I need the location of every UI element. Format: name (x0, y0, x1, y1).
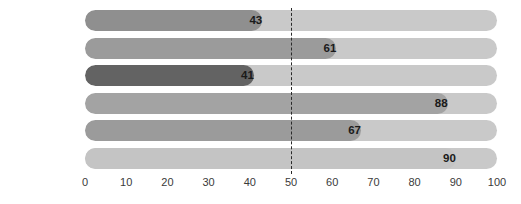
axis-tick: 60 (326, 176, 338, 188)
bar-value-label: 90 (85, 148, 462, 169)
axis-tick: 70 (367, 176, 379, 188)
bar-value-label: 43 (85, 10, 268, 31)
bar-value-label: 67 (85, 120, 367, 141)
axis-tick: 40 (244, 176, 256, 188)
axis-tick: 100 (488, 176, 506, 188)
axis-tick: 20 (161, 176, 173, 188)
axis-tick: 90 (450, 176, 462, 188)
x-axis: 0 10 20 30 40 50 60 70 80 90 100 (0, 176, 521, 196)
axis-tick: 10 (120, 176, 132, 188)
axis-tick: 50 (285, 176, 297, 188)
bar-value-label: 41 (85, 65, 260, 86)
bar-value-label: 61 (85, 38, 342, 59)
axis-tick: 0 (82, 176, 88, 188)
horizontal-bar-chart: 보상 43 고용안전 61 발전가능성 41 근무여건 88 직업전문성 (0, 0, 521, 204)
axis-tick: 30 (202, 176, 214, 188)
axis-tick: 80 (408, 176, 420, 188)
reference-line-50 (291, 8, 292, 174)
bar-value-label: 88 (85, 93, 454, 114)
